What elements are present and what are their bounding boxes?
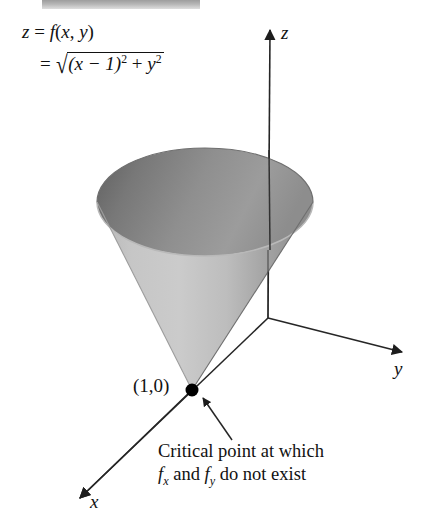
- z-axis-overlay: [269, 150, 270, 250]
- critical-point-marker: [186, 384, 199, 397]
- figure-container: z = f(x, y) = √(x − 1)2 + y2: [0, 0, 441, 520]
- axis-label-x: x: [90, 491, 98, 513]
- critical-point-label: (1,0): [133, 375, 169, 397]
- figure-caption: Critical point at which fx and fy do not…: [158, 440, 324, 486]
- caption-leader-line: [203, 398, 232, 440]
- caption-line-2: fx and fy do not exist: [158, 463, 324, 486]
- axis-label-z: z: [281, 22, 288, 44]
- caption-tail: do not exist: [215, 464, 306, 484]
- cone-surface: [97, 148, 313, 390]
- y-axis: [268, 318, 402, 352]
- caption-and: and: [169, 464, 205, 484]
- caption-line-1: Critical point at which: [158, 441, 324, 461]
- axis-label-y: y: [394, 358, 402, 380]
